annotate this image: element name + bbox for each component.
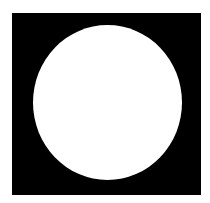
white-circle (33, 25, 182, 180)
black-square (12, 13, 201, 195)
